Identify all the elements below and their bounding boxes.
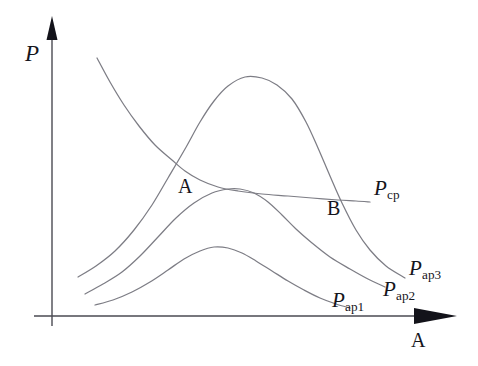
- point-label-a: A: [178, 176, 192, 196]
- curve-pap3: [78, 76, 405, 278]
- curve-label-pcp: Pcp: [374, 178, 399, 199]
- curve-label-pap2: Pap2: [383, 279, 415, 300]
- curve-label-base: P: [332, 288, 345, 312]
- point-label-b: B: [327, 198, 340, 218]
- curve-label-base: P: [374, 176, 387, 200]
- curve-label-subscript: cp: [387, 187, 399, 202]
- x-axis-arrow-icon: [414, 308, 457, 324]
- x-axis-label: A: [411, 330, 425, 350]
- y-axis-arrow-icon: [47, 16, 58, 40]
- curve-label-subscript: ap1: [345, 299, 364, 314]
- curve-pcp: [97, 58, 370, 202]
- curve-label-pap3: Pap3: [409, 258, 441, 279]
- curve-label-base: P: [383, 277, 396, 301]
- curve-pap1: [95, 247, 350, 308]
- curves-group: [78, 58, 405, 308]
- figure-canvas: [0, 0, 478, 366]
- curve-label-pap1: Pap1: [332, 290, 364, 311]
- y-axis-label: P: [25, 42, 39, 65]
- curve-label-base: P: [409, 256, 422, 280]
- power-curve-figure: P A A B Pcp Pap3 Pap2 Pap1: [0, 0, 478, 366]
- curve-label-subscript: ap3: [422, 267, 441, 282]
- curve-label-subscript: ap2: [396, 288, 415, 303]
